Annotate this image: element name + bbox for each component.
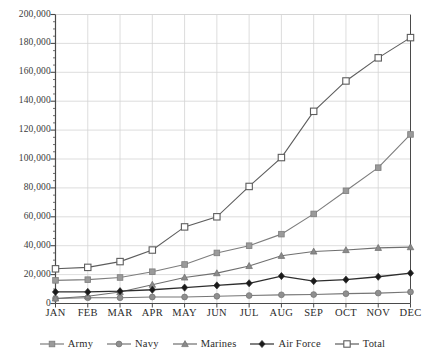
x-axis-tick-label: OCT [335,308,357,319]
legend-item-navy[interactable]: Navy [106,338,159,350]
x-axis-tick-label: JAN [45,308,65,319]
circle-filled-gray-icon [106,338,132,350]
x-axis-tick-label: FEB [78,308,98,319]
legend-item-label: Navy [135,339,159,350]
line-chart: 200,000180,000160,000140,000120,000100,0… [0,0,424,362]
x-axis-tick-label: AUG [270,308,294,319]
square-open-white-icon [334,338,360,350]
legend-item-label: Marines [201,339,237,350]
x-axis-tick-label: MAY [172,308,196,319]
triangle-filled-gray-icon [172,338,198,350]
x-axis-tick-label: JUL [240,308,259,319]
chart-legend: ArmyNavyMarinesAir ForceTotal [0,334,424,354]
legend-item-label: Total [363,339,385,350]
x-axis-tick-label: DEC [400,308,422,319]
x-axis-tick-label: SEP [304,308,323,319]
legend-item-total[interactable]: Total [334,338,385,350]
x-axis-tick-label: MAR [108,308,133,319]
square-filled-gray-icon [39,338,65,350]
legend-item-army[interactable]: Army [39,338,93,350]
legend-item-marines[interactable]: Marines [172,338,237,350]
legend-item-air-force[interactable]: Air Force [249,338,320,350]
legend-item-label: Air Force [278,339,320,350]
x-axis-tick-labels: JANFEBMARAPRMAYJUNJULAUGSEPOCTNOVDEC [0,0,424,362]
diamond-filled-black-icon [249,338,275,350]
legend-item-label: Army [68,339,93,350]
x-axis-tick-label: APR [142,308,163,319]
x-axis-tick-label: JUN [207,308,227,319]
x-axis-tick-label: NOV [366,308,390,319]
